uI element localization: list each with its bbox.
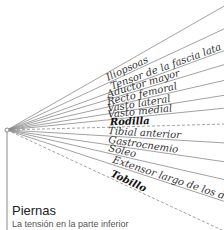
section-title: Piernas [12, 203, 56, 218]
muscle-diagram: IliopsoasTensor de la fascia lataAductor… [0, 0, 224, 230]
section-subtitle: La tensión en la parte inferior [12, 219, 129, 229]
origin-dot [5, 128, 9, 132]
